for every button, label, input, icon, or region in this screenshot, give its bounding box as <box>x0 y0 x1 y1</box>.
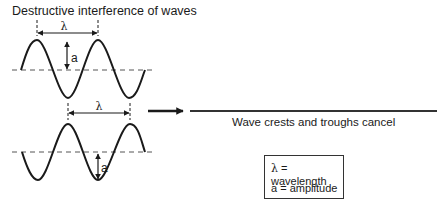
amplitude-text: = amplitude <box>280 182 337 194</box>
wave-2-amplitude-label: a <box>101 161 108 175</box>
wave-1-amplitude-label: a <box>71 51 78 65</box>
wave-2-wavelength-label: λ <box>96 100 103 113</box>
amplitude-symbol: a <box>271 182 277 194</box>
wave-diagram: λ a λ a <box>0 0 445 213</box>
wave-1-wavelength-label: λ <box>61 20 68 33</box>
wavelength-symbol: λ <box>271 162 278 175</box>
wave-1 <box>12 20 155 98</box>
legend-box: λ = wavelength a = amplitude <box>264 155 344 199</box>
wave-2 <box>12 103 155 180</box>
result-caption: Wave crests and troughs cancel <box>232 116 395 128</box>
wave-1-curve <box>21 40 145 98</box>
legend-item-amplitude: a = amplitude <box>271 182 337 194</box>
